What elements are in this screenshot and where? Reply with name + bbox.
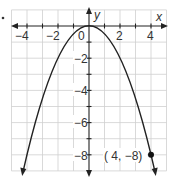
y-tick-label: −2 (74, 52, 88, 66)
x-tick-label: 4 (147, 29, 154, 43)
y-axis-down-arrow-icon (86, 170, 92, 177)
point-4-neg8 (148, 152, 154, 158)
curve-left-arrow-icon (20, 168, 26, 177)
y-axis-up-arrow-icon (86, 7, 92, 14)
bullet-dot (2, 17, 5, 20)
x-tick-label: −2 (46, 29, 60, 43)
point-label: ( 4, −8) (104, 149, 142, 163)
x-tick-label: 0 (78, 29, 85, 43)
x-axis-label: x (155, 10, 163, 24)
y-tick-label: −4 (74, 84, 88, 98)
y-axis-label: y (93, 8, 101, 22)
y-tick-label: −6 (74, 116, 88, 130)
parabola-graph: y x −4 −2 0 2 4 −2 −4 −6 −8 ( 4, −8) (0, 0, 174, 180)
x-axis-right-arrow-icon (161, 23, 168, 29)
x-tick-label: 2 (116, 29, 123, 43)
curve-right-arrow-icon (152, 168, 158, 177)
x-tick-label: −4 (15, 29, 29, 43)
y-tick-label: −8 (74, 149, 88, 163)
